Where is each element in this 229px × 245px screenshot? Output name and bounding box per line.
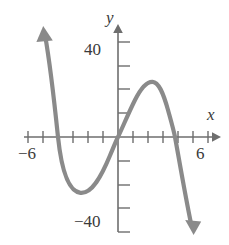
cubic-function-plot: [0, 0, 229, 245]
curve-arrowhead-down-right: [185, 220, 201, 235]
x-axis-label-6: 6: [196, 145, 205, 162]
curve-arrowhead-up-left: [36, 26, 52, 42]
y-axis-name: y: [106, 9, 114, 26]
y-axis-label-40: 40: [84, 41, 101, 58]
y-axis-label-negative-40: −40: [74, 213, 101, 230]
x-axis-label-negative-6: −6: [18, 145, 36, 162]
y-axis-arrowhead: [113, 24, 123, 33]
graph-figure: 40 −40 −6 6 y x: [0, 0, 229, 245]
x-axis-arrowhead: [212, 132, 221, 142]
x-axis-name: x: [207, 106, 215, 123]
